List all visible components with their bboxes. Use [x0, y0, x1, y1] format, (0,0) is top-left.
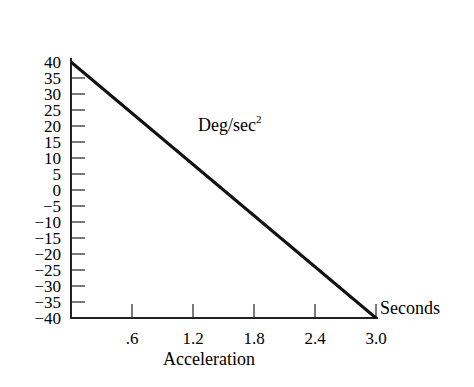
annotation-label: Deg/sec2 — [198, 113, 261, 135]
y-axis-ticks: 4035302520151050−5−10−15−20−25−30−35−40 — [34, 53, 85, 328]
x-tick-label: .6 — [126, 329, 139, 348]
x-tick-label: 2.4 — [304, 329, 326, 348]
x-unit-label: Seconds — [380, 298, 440, 318]
x-tick-label: 1.8 — [243, 329, 264, 348]
x-axis-ticks: .61.21.82.43.0 — [126, 304, 387, 348]
x-axis-label: Acceleration — [163, 349, 255, 369]
chart: 4035302520151050−5−10−15−20−25−30−35−40 … — [0, 0, 474, 387]
y-tick-label: −40 — [34, 309, 61, 328]
x-tick-label: 3.0 — [365, 329, 386, 348]
data-line — [71, 62, 376, 318]
x-tick-label: 1.2 — [182, 329, 203, 348]
